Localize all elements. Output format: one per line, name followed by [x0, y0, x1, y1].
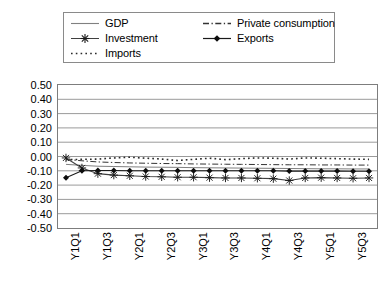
diamond-marker-icon	[63, 175, 69, 181]
asterisk-marker-icon	[317, 173, 325, 181]
x-axis-tick-label: Y4Q1	[261, 232, 272, 260]
solid-line-sample-icon	[70, 17, 100, 30]
legend-label-imports: Imports	[105, 47, 141, 60]
asterisk-marker-icon	[365, 174, 373, 182]
diamond-marker-line-sample-icon	[202, 32, 232, 45]
diamond-marker-icon	[159, 168, 165, 174]
legend-item-imports: Imports	[70, 46, 158, 61]
series-line	[66, 159, 369, 165]
x-axis-tick-label: Y2Q1	[134, 232, 145, 260]
legend-label-private-consumption: Private consumption	[237, 17, 335, 30]
legend-column-left: GDP Investment	[70, 16, 158, 61]
series-private-consumption	[66, 159, 369, 165]
y-axis-tick-label: 0.30	[31, 108, 52, 119]
asterisk-marker-icon	[269, 174, 277, 182]
y-axis-tick-label: 0.10	[31, 137, 52, 148]
diamond-marker-icon	[238, 168, 244, 174]
y-axis-tick-label: -0.20	[27, 180, 52, 191]
series-line	[66, 157, 369, 160]
x-axis-tick-label: Y3Q3	[229, 232, 240, 260]
plot-area	[57, 84, 378, 229]
chart-legend: GDP Investment	[63, 12, 335, 63]
y-axis-tick-label: 0.20	[31, 122, 52, 133]
diamond-marker-icon	[175, 168, 181, 174]
legend-item-private-consumption: Private consumption	[202, 16, 335, 31]
asterisk-marker-icon	[301, 174, 309, 182]
legend-column-right: Private consumption Exports	[202, 16, 335, 46]
y-axis-tick-label: 0.50	[31, 80, 52, 91]
y-axis-tick-label: -0.50	[27, 223, 52, 234]
asterisk-marker-icon	[157, 173, 165, 181]
x-axis-tick-labels: Y1Q1Y1Q3Y2Q1Y2Q3Y3Q1Y3Q3Y4Q1Y4Q3Y5Q1Y5Q3	[57, 232, 378, 284]
diamond-marker-icon	[143, 168, 149, 174]
y-axis-tick-label: -0.40	[27, 208, 52, 219]
legend-label-gdp: GDP	[105, 17, 129, 30]
diamond-marker-icon	[127, 168, 133, 174]
x-axis-tick-label: Y1Q3	[102, 232, 113, 260]
diamond-marker-icon	[222, 168, 228, 174]
legend-label-exports: Exports	[237, 32, 274, 45]
x-axis-tick-label: Y3Q1	[198, 232, 209, 260]
asterisk-marker-line-sample-icon	[70, 32, 100, 45]
legend-item-gdp: GDP	[70, 16, 158, 31]
asterisk-marker-icon	[173, 173, 181, 181]
asterisk-marker-icon	[349, 174, 357, 182]
x-axis-tick-label: Y5Q1	[325, 232, 336, 260]
x-axis-tick-label: Y2Q3	[166, 232, 177, 260]
asterisk-marker-icon	[333, 174, 341, 182]
y-axis-tick-label: -0.30	[27, 194, 52, 205]
legend-label-investment: Investment	[105, 32, 158, 45]
asterisk-marker-icon	[237, 174, 245, 182]
asterisk-marker-icon	[205, 173, 213, 181]
series-exports	[63, 168, 372, 181]
x-axis-tick-label: Y5Q3	[357, 232, 368, 260]
legend-item-investment: Investment	[70, 31, 158, 46]
y-axis-tick-label: 0.00	[31, 151, 52, 162]
legend-item-exports: Exports	[202, 31, 335, 46]
series-imports	[66, 157, 369, 160]
diamond-marker-icon	[191, 168, 197, 174]
y-axis-tick-label: -0.10	[27, 165, 52, 176]
y-axis-tick-labels: 0.500.400.300.200.100.00-0.10-0.20-0.30-…	[0, 84, 52, 229]
dotted-line-sample-icon	[70, 47, 100, 60]
plot-canvas	[58, 85, 377, 228]
asterisk-marker-icon	[189, 173, 197, 181]
asterisk-marker-icon	[62, 154, 70, 162]
x-axis-tick-label: Y1Q1	[70, 232, 81, 260]
line-chart: GDP Investment	[0, 0, 391, 286]
dash-dot-line-sample-icon	[202, 17, 232, 30]
asterisk-marker-icon	[285, 176, 293, 184]
asterisk-marker-icon	[253, 174, 261, 182]
x-axis-tick-label: Y4Q3	[293, 232, 304, 260]
diamond-marker-icon	[207, 168, 213, 174]
asterisk-marker-icon	[221, 174, 229, 182]
y-axis-tick-label: 0.40	[31, 94, 52, 105]
